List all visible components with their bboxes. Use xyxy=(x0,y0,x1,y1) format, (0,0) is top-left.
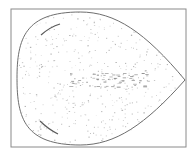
lower-left-stroke xyxy=(40,121,58,134)
teardrop-diagram xyxy=(0,0,196,158)
center-band xyxy=(69,73,150,88)
stipple-dots xyxy=(17,12,182,143)
upper-left-stroke xyxy=(41,24,60,35)
